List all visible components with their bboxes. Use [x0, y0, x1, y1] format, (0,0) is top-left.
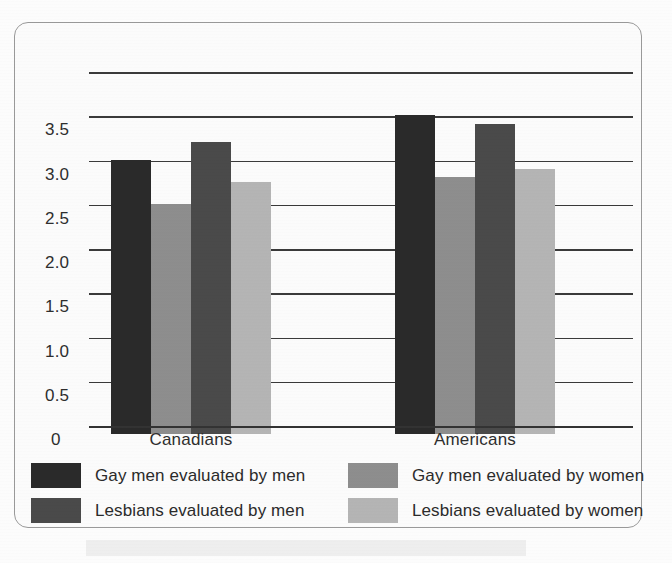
legend-label-3: Lesbians evaluated by men	[95, 501, 304, 521]
legend-label-4: Lesbians evaluated by women	[412, 501, 643, 521]
y-tick-label-0-5: 0.5	[45, 386, 91, 406]
y-tick-label-3-5: 3.5	[45, 120, 91, 140]
bar-canadians-series-3[interactable]	[191, 142, 231, 434]
y-tick-label-3-0: 3.0	[45, 165, 91, 185]
legend-label-1: Gay men evaluated by men	[95, 466, 305, 486]
y-tick-label-2-5: 2.5	[45, 209, 91, 229]
x-axis-baseline	[89, 426, 633, 428]
bar-chart-plot-area: 3.53.02.52.01.51.00.5 0 Canadians Americ…	[31, 49, 655, 434]
bars-layer	[89, 49, 633, 434]
page-smudge	[86, 540, 526, 556]
figure-frame: 3.53.02.52.01.51.00.5 0 Canadians Americ…	[14, 22, 642, 528]
legend-swatch-icon-1	[31, 463, 81, 488]
legend-label-2: Gay men evaluated by women	[412, 466, 644, 486]
legend-item-1[interactable]: Gay men evaluated by men	[31, 463, 338, 488]
legend-swatch-icon-2	[348, 463, 398, 488]
y-tick-label-2-0: 2.0	[45, 253, 91, 273]
bar-americans-series-3[interactable]	[475, 124, 515, 434]
legend-item-4[interactable]: Lesbians evaluated by women	[348, 498, 655, 523]
bar-canadians-series-2[interactable]	[151, 204, 191, 434]
y-axis-zero-label: 0	[51, 430, 60, 450]
category-label-americans: Americans	[405, 430, 545, 450]
bar-group-americans	[395, 57, 555, 434]
y-tick-label-1-5: 1.5	[45, 297, 91, 317]
bar-canadians-series-4[interactable]	[231, 182, 271, 434]
chart-legend: Gay men evaluated by menGay men evaluate…	[31, 463, 655, 539]
bar-americans-series-4[interactable]	[515, 169, 555, 435]
legend-swatch-icon-4	[348, 498, 398, 523]
bar-group-canadians	[111, 57, 271, 434]
bar-canadians-series-1[interactable]	[111, 160, 151, 434]
scanned-page: 3.53.02.52.01.51.00.5 0 Canadians Americ…	[0, 0, 672, 563]
bar-americans-series-2[interactable]	[435, 177, 475, 434]
category-label-canadians: Canadians	[121, 430, 261, 450]
bar-americans-series-1[interactable]	[395, 115, 435, 434]
legend-item-3[interactable]: Lesbians evaluated by men	[31, 498, 338, 523]
legend-swatch-icon-3	[31, 498, 81, 523]
legend-item-2[interactable]: Gay men evaluated by women	[348, 463, 655, 488]
y-tick-label-1-0: 1.0	[45, 342, 91, 362]
